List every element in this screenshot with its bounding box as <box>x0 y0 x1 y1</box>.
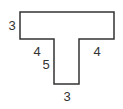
label-stem-width: 3 <box>63 90 70 103</box>
label-top-bar-height: 3 <box>8 19 15 32</box>
label-right-overhang: 4 <box>93 45 100 58</box>
t-shape-diagram <box>0 0 123 109</box>
label-stem-height: 5 <box>42 58 49 71</box>
label-left-overhang: 4 <box>33 45 40 58</box>
